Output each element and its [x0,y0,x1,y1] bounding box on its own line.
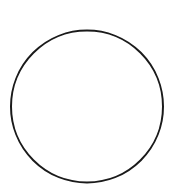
circle-outline [11,31,163,183]
diagram-canvas [0,0,182,194]
